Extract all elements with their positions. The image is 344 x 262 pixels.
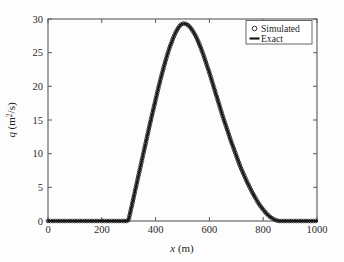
y-axis-title: q (m2/s) xyxy=(5,102,19,138)
plot-frame xyxy=(48,19,317,221)
figure-container: 02004006008001000051015202530 Simulated … xyxy=(0,0,344,262)
y-tick-label: 20 xyxy=(33,81,44,92)
y-tick-label: 0 xyxy=(38,216,43,227)
x-tick-label: 400 xyxy=(148,224,164,235)
x-axis-title-units: (m) xyxy=(175,242,194,255)
data-layer xyxy=(46,22,317,223)
chart-canvas: 02004006008001000051015202530 Simulated … xyxy=(0,0,344,262)
x-tick-label: 0 xyxy=(45,224,50,235)
chart-legend: Simulated Exact xyxy=(246,21,312,45)
y-tick-label: 25 xyxy=(33,47,44,58)
legend-label-exact: Exact xyxy=(261,33,283,44)
axes-layer xyxy=(48,19,317,221)
tick-labels-layer: 02004006008001000051015202530 xyxy=(33,14,328,235)
y-axis-title-units-post: /s) xyxy=(5,102,18,113)
x-tick-label: 600 xyxy=(202,224,218,235)
y-tick-label: 30 xyxy=(33,14,44,25)
x-axis-title: x (m) xyxy=(169,242,194,255)
x-tick-label: 200 xyxy=(94,224,110,235)
x-tick-label: 800 xyxy=(255,224,271,235)
y-tick-label: 10 xyxy=(33,148,44,159)
y-axis-title-units-pre: (m xyxy=(5,117,18,132)
series-exact-line xyxy=(48,24,317,222)
series-simulated-markers xyxy=(46,22,317,223)
x-tick-label: 1000 xyxy=(307,224,328,235)
ticks-layer xyxy=(48,19,317,221)
y-tick-label: 15 xyxy=(33,115,44,126)
y-tick-label: 5 xyxy=(38,182,43,193)
